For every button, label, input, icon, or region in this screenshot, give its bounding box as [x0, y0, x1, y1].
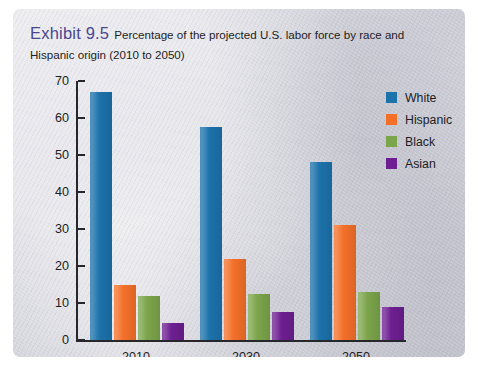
bar-white-2050 [310, 162, 332, 340]
legend-label: Asian [405, 157, 436, 171]
y-axis-tick-label: 30 [55, 222, 69, 236]
y-axis-tick-label: 60 [55, 111, 69, 125]
bar-hispanic-2050 [334, 225, 356, 340]
legend-swatch-icon [386, 158, 397, 169]
legend-label: Black [405, 135, 435, 149]
y-axis-tick-label: 50 [55, 148, 69, 162]
legend-swatch-icon [386, 136, 397, 147]
exhibit-number: Exhibit 9.5 [30, 24, 109, 42]
legend-label: White [405, 91, 436, 105]
exhibit-figure: Exhibit 9.5Percentage of the projected U… [13, 9, 465, 357]
x-axis-line [76, 340, 406, 342]
y-axis-tick-label: 40 [55, 185, 69, 199]
legend-item-black: Black [386, 132, 452, 151]
chart-plot-area: 010203040506070 201020302050 [76, 81, 396, 340]
figure-title: Exhibit 9.5Percentage of the projected U… [30, 23, 445, 65]
y-axis-tick-label: 0 [62, 333, 69, 347]
legend-label: Hispanic [405, 113, 452, 127]
y-axis-tick-label: 70 [55, 74, 69, 88]
y-axis-tick-label: 20 [55, 259, 69, 273]
bar-hispanic-2030 [224, 259, 246, 340]
bar-series-layer [78, 81, 396, 340]
x-axis-tick-label: 2050 [342, 350, 370, 357]
legend-item-hispanic: Hispanic [386, 110, 452, 129]
bar-black-2050 [358, 292, 380, 340]
bar-black-2010 [138, 296, 160, 340]
y-axis-tick-label: 10 [55, 296, 69, 310]
legend-swatch-icon [386, 92, 397, 103]
bar-asian-2030 [272, 312, 294, 340]
bar-asian-2010 [162, 323, 184, 340]
bar-white-2030 [200, 127, 222, 340]
bar-hispanic-2010 [114, 285, 136, 341]
chart-legend: WhiteHispanicBlackAsian [386, 88, 452, 176]
bar-group [90, 81, 186, 340]
bar-white-2010 [90, 92, 112, 340]
bar-asian-2050 [382, 307, 404, 340]
legend-item-asian: Asian [386, 154, 452, 173]
bar-group [200, 81, 296, 340]
x-axis-tick-label: 2030 [232, 350, 260, 357]
legend-item-white: White [386, 88, 452, 107]
legend-swatch-icon [386, 114, 397, 125]
x-axis-tick-label: 2010 [122, 350, 150, 357]
bar-black-2030 [248, 294, 270, 340]
